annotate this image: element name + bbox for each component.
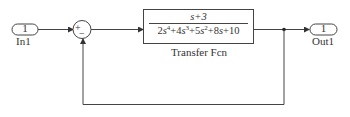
sum-minus-sign: − (79, 28, 85, 39)
outport-label: Out1 (312, 35, 334, 47)
transfer-fcn-label: Transfer Fcn (171, 46, 227, 58)
transfer-fcn-expression: s+3 2s4+4s3+5s2+8s+10 (149, 11, 248, 37)
inport-label: In1 (16, 35, 31, 47)
transfer-fcn-denominator: 2s4+4s3+5s2+8s+10 (149, 23, 248, 37)
inport-number: 1 (12, 22, 38, 34)
transfer-fcn-numerator: s+3 (149, 11, 248, 23)
outport-number: 1 (310, 22, 337, 34)
